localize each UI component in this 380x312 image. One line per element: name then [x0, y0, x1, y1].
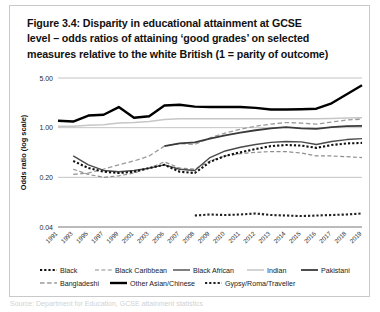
x-axis-tick-label: 1993 — [59, 229, 74, 244]
y-axis-tick-label: 1.00 — [39, 124, 53, 131]
x-axis-tick-label: 2015 — [287, 229, 302, 244]
series-line-other-asian-chinese — [58, 85, 362, 121]
x-axis-tick-label: 2018 — [333, 229, 348, 244]
x-axis-tick-label: 2017 — [318, 229, 333, 244]
source-caption: Source: Department for Education, GCSE a… — [10, 300, 370, 311]
legend-label-black-african[interactable]: Black African — [193, 267, 234, 275]
y-axis-tick-label: 0.20 — [39, 174, 53, 181]
x-axis-tick-label: 1991 — [44, 229, 59, 244]
x-axis-tick-label: 2010 — [211, 229, 226, 244]
legend-label-other-asian-chinese[interactable]: Other Asian/Chinese — [130, 280, 195, 288]
series-line-gypsy-roma-traveller — [195, 213, 362, 216]
y-axis-tick-label: 5.00 — [39, 75, 53, 82]
x-axis-tick-label: 2013 — [257, 229, 272, 244]
x-axis-tick-label: 2014 — [272, 229, 287, 244]
x-axis-tick-label: 2016 — [302, 229, 317, 244]
x-axis-tick-label: 1995 — [74, 229, 89, 244]
x-axis-tick-label: 2001 — [120, 229, 135, 244]
chart-area: 5.001.000.200.04Odds ratio (log scale)19… — [10, 6, 371, 298]
x-axis-tick-label: 2006 — [150, 229, 165, 244]
legend-label-pakistani[interactable]: Pakistani — [321, 267, 350, 275]
series-line-black — [73, 143, 362, 173]
x-axis-tick-label: 2009 — [196, 229, 211, 244]
x-axis-tick-label: 2003 — [135, 229, 150, 244]
x-axis-tick-label: 2007 — [166, 229, 181, 244]
x-axis-tick-label: 2012 — [242, 229, 257, 244]
figure-card: Figure 3.4: Disparity in educational att… — [9, 5, 370, 297]
legend-label-black-caribbean[interactable]: Black Caribbean — [115, 267, 167, 275]
series-line-black-african — [73, 139, 362, 172]
y-axis-tick-label: 0.04 — [39, 224, 53, 231]
legend-label-gypsy-roma-traveller[interactable]: Gypsy/Roma/Traveller — [225, 280, 296, 288]
y-axis-title: Odds ratio (log scale) — [19, 114, 28, 190]
series-line-black-caribbean — [73, 152, 362, 178]
legend-label-indian[interactable]: Indian — [267, 267, 286, 275]
x-axis-tick-label: 2008 — [181, 229, 196, 244]
x-axis-tick-label: 2011 — [227, 229, 242, 244]
line-chart: 5.001.000.200.04Odds ratio (log scale)19… — [10, 6, 371, 298]
legend-label-bangladeshi[interactable]: Bangladeshi — [60, 280, 99, 288]
legend-label-black[interactable]: Black — [60, 267, 78, 275]
series-line-indian — [58, 118, 362, 126]
x-axis-tick-label: 1997 — [90, 229, 105, 244]
x-axis-tick-label: 1999 — [105, 229, 120, 244]
x-axis-tick-label: 2019 — [348, 229, 363, 244]
